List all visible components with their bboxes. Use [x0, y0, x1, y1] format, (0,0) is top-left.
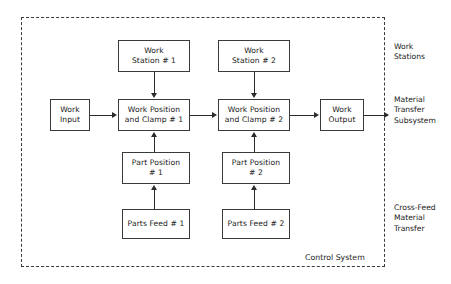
node-part-position-1-line-2: # 1 [149, 168, 163, 178]
side-label-work-stations-line-2: Stations [394, 52, 425, 62]
node-work-station-2-line-2: Station # 2 [232, 56, 276, 66]
side-label-cross-feed-material-transfer-line-2: Material [394, 213, 436, 223]
side-label-material-transfer-subsystem-line-2: Transfer [394, 105, 436, 115]
arrowhead-work-input-to-wpc1-icon [112, 112, 117, 118]
node-work-station-1-line-2: Station # 1 [132, 56, 176, 66]
node-parts-feed-1[interactable]: Parts Feed # 1 [122, 209, 190, 239]
connector-pp2-to-wpc2 [254, 137, 255, 152]
node-parts-feed-2-line-1: Parts Feed # 2 [228, 219, 285, 229]
side-label-cross-feed-material-transfer-line-1: Cross-Feed [394, 203, 436, 213]
arrowhead-ws1-to-wpc1-icon [151, 93, 157, 98]
node-work-position-and-clamp-2-line-1: Work Position [228, 105, 281, 115]
arrowhead-pp2-to-wpc2-icon [251, 132, 257, 137]
node-work-position-and-clamp-1-line-1: Work Position [128, 105, 181, 115]
side-label-work-stations-line-1: Work [394, 42, 425, 52]
node-work-output-line-2: Output [329, 115, 356, 125]
arrowhead-pp1-to-wpc1-icon [151, 132, 157, 137]
block-diagram: Work Station # 1 Work Station # 2 Work I… [0, 0, 451, 284]
side-label-work-stations: Work Stations [394, 42, 425, 63]
node-parts-feed-2[interactable]: Parts Feed # 2 [222, 209, 290, 239]
connector-wpc1-to-wpc2 [190, 115, 212, 116]
connector-pp1-to-wpc1 [154, 137, 155, 152]
node-part-position-2-line-1: Part Position [232, 158, 280, 168]
side-label-cross-feed-material-transfer-line-3: Transfer [394, 224, 436, 234]
connector-pf1-to-pp1 [154, 190, 155, 209]
connector-pf2-to-pp2 [254, 190, 255, 209]
control-system-label: Control System [305, 253, 365, 263]
connector-work-input-to-wpc1 [90, 115, 112, 116]
connector-ws2-to-wpc2 [254, 72, 255, 93]
node-part-position-1[interactable]: Part Position # 1 [122, 152, 190, 184]
arrowhead-ws2-to-wpc2-icon [251, 93, 257, 98]
arrowhead-work-output-exit-icon [384, 112, 389, 118]
node-work-position-and-clamp-2[interactable]: Work Position and Clamp # 2 [218, 99, 290, 131]
node-work-station-2-line-1: Work [244, 46, 264, 56]
node-work-station-2[interactable]: Work Station # 2 [218, 40, 290, 72]
arrowhead-pf1-to-pp1-icon [151, 185, 157, 190]
node-work-position-and-clamp-2-line-2: and Clamp # 2 [225, 115, 283, 125]
node-part-position-2[interactable]: Part Position # 2 [222, 152, 290, 184]
node-parts-feed-1-line-1: Parts Feed # 1 [128, 219, 185, 229]
node-part-position-2-line-2: # 2 [249, 168, 263, 178]
side-label-material-transfer-subsystem: Material Transfer Subsystem [394, 95, 436, 126]
connector-ws1-to-wpc1 [154, 72, 155, 93]
side-label-cross-feed-material-transfer: Cross-Feed Material Transfer [394, 203, 436, 234]
connector-wpc2-to-work-output [290, 115, 314, 116]
node-work-input[interactable]: Work Input [50, 99, 90, 131]
arrowhead-pf2-to-pp2-icon [251, 185, 257, 190]
side-label-material-transfer-subsystem-line-3: Subsystem [394, 116, 436, 126]
node-work-output[interactable]: Work Output [320, 99, 364, 131]
node-work-position-and-clamp-1-line-2: and Clamp # 1 [125, 115, 183, 125]
control-system-boundary [21, 17, 385, 267]
side-label-material-transfer-subsystem-line-1: Material [394, 95, 436, 105]
node-work-output-line-1: Work [332, 105, 352, 115]
node-work-position-and-clamp-1[interactable]: Work Position and Clamp # 1 [118, 99, 190, 131]
node-work-input-line-2: Input [60, 115, 80, 125]
arrowhead-wpc1-to-wpc2-icon [212, 112, 217, 118]
node-work-station-1[interactable]: Work Station # 1 [118, 40, 190, 72]
arrowhead-wpc2-to-work-output-icon [314, 112, 319, 118]
node-work-input-line-1: Work [60, 105, 80, 115]
node-work-station-1-line-1: Work [144, 46, 164, 56]
node-part-position-1-line-1: Part Position [132, 158, 180, 168]
